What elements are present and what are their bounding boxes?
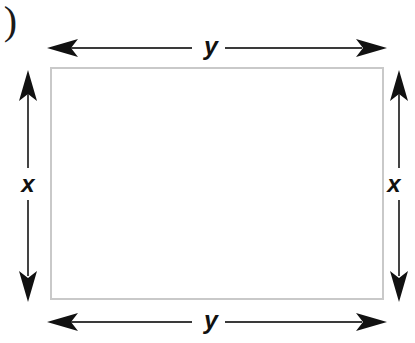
arrowhead-right-icon (356, 39, 387, 57)
arrowhead-down-icon (390, 271, 408, 302)
rectangle-shape (50, 67, 384, 300)
arrowhead-down-icon (19, 271, 37, 302)
arrowhead-right-icon (356, 313, 387, 331)
dimension-label-left-x: x (16, 172, 40, 196)
arrowhead-up-icon (19, 70, 37, 101)
dimension-label-bottom-y: y (196, 308, 226, 333)
dimension-label-top-y: y (196, 34, 226, 59)
part-marker-paren: ) (0, 2, 17, 42)
arrowhead-up-icon (390, 70, 408, 101)
figure-canvas: ) (0, 0, 415, 343)
arrowhead-left-icon (47, 313, 78, 331)
dimension-label-right-x: x (382, 172, 406, 196)
arrowhead-left-icon (47, 39, 78, 57)
